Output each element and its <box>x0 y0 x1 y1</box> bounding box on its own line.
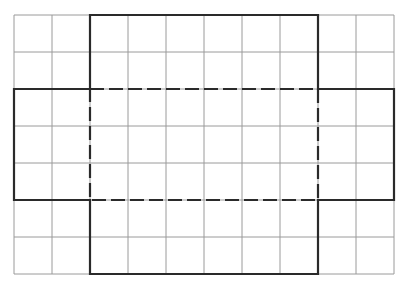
box-net-diagram <box>0 0 403 286</box>
grid-lines <box>14 15 394 274</box>
